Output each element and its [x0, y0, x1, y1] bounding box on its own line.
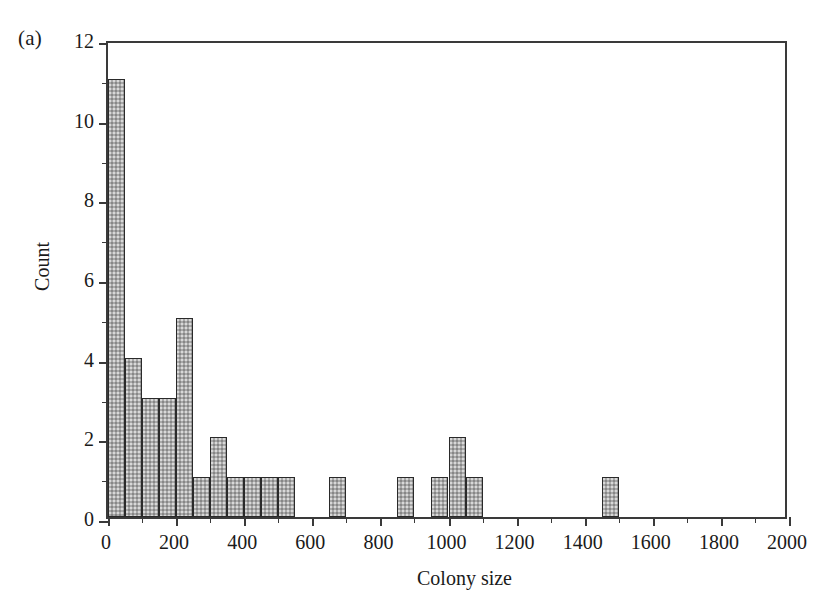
x-axis-minor-tick — [142, 517, 143, 523]
y-axis-title: Count — [31, 207, 54, 327]
histogram-bar — [176, 318, 193, 517]
histogram-bar — [193, 477, 210, 517]
x-axis-tick-label: 400 — [227, 531, 257, 554]
histogram-bar — [125, 358, 142, 517]
y-axis-minor-tick — [102, 83, 108, 84]
histogram-bar — [329, 477, 346, 517]
x-axis-minor-tick — [210, 517, 211, 523]
y-axis-minor-tick — [102, 322, 108, 323]
x-axis-minor-tick — [619, 517, 620, 523]
y-axis-tick-label: 8 — [84, 189, 94, 212]
y-axis-tick-label: 4 — [84, 348, 94, 371]
y-axis-minor-tick — [102, 242, 108, 243]
y-axis-tick-label: 10 — [74, 109, 94, 132]
x-axis-tick — [176, 517, 178, 526]
y-axis-tick — [99, 43, 108, 45]
y-axis-tick — [99, 123, 108, 125]
x-axis-tick — [449, 517, 451, 526]
x-axis-tick-label: 1200 — [495, 531, 535, 554]
plot-area — [106, 41, 787, 519]
y-axis-tick — [99, 441, 108, 443]
histogram-bar — [227, 477, 244, 517]
x-axis-tick — [312, 517, 314, 526]
x-axis-tick — [108, 517, 110, 526]
x-axis-minor-tick — [687, 517, 688, 523]
x-axis-tick-label: 200 — [159, 531, 189, 554]
y-axis-tick — [99, 521, 108, 523]
y-axis-tick — [99, 282, 108, 284]
y-axis-minor-tick — [102, 163, 108, 164]
histogram-bar — [466, 477, 483, 517]
y-axis-tick — [99, 202, 108, 204]
y-axis-tick-label: 0 — [84, 508, 94, 531]
y-axis-tick-label: 12 — [74, 30, 94, 53]
x-axis-tick-label: 0 — [101, 531, 111, 554]
x-axis-tick — [585, 517, 587, 526]
x-axis-title-text: Colony size — [417, 567, 512, 589]
x-axis-minor-tick — [483, 517, 484, 523]
x-axis-title: Colony size — [0, 567, 829, 590]
histogram-figure: (a) Count 024681012 02004006008001000120… — [0, 0, 829, 608]
x-axis-tick — [517, 517, 519, 526]
y-axis-minor-tick — [102, 481, 108, 482]
x-axis-tick-label: 1800 — [699, 531, 739, 554]
histogram-bars — [108, 43, 785, 517]
x-axis-tick-label: 1400 — [563, 531, 603, 554]
x-axis-tick-label: 600 — [295, 531, 325, 554]
histogram-bar — [261, 477, 278, 517]
x-axis-tick-label: 800 — [363, 531, 393, 554]
histogram-bar — [159, 398, 176, 518]
y-axis-minor-tick — [102, 402, 108, 403]
x-axis-tick — [244, 517, 246, 526]
histogram-bar — [108, 79, 125, 517]
x-axis-tick — [789, 517, 791, 526]
x-axis-tick-label: 1000 — [427, 531, 467, 554]
x-axis-minor-tick — [278, 517, 279, 523]
y-axis-tick-label: 6 — [84, 269, 94, 292]
histogram-bar — [278, 477, 295, 517]
x-axis-tick-label: 1600 — [631, 531, 671, 554]
histogram-bar — [602, 477, 619, 517]
histogram-bar — [210, 437, 227, 517]
x-axis-tick-label: 2000 — [767, 531, 807, 554]
panel-label: (a) — [18, 26, 42, 51]
x-axis-tick-labels: 0200400600800100012001400160018002000 — [0, 531, 829, 561]
x-axis-tick — [380, 517, 382, 526]
histogram-bar — [397, 477, 414, 517]
x-axis-tick — [653, 517, 655, 526]
histogram-bar — [142, 398, 159, 518]
y-axis-tick — [99, 362, 108, 364]
x-axis-minor-tick — [414, 517, 415, 523]
histogram-bar — [244, 477, 261, 517]
histogram-bar — [431, 477, 448, 517]
y-axis-tick-labels: 024681012 — [58, 0, 94, 608]
x-axis-minor-tick — [551, 517, 552, 523]
y-axis-tick-label: 2 — [84, 428, 94, 451]
x-axis-minor-tick — [755, 517, 756, 523]
x-axis-tick — [721, 517, 723, 526]
x-axis-minor-tick — [346, 517, 347, 523]
histogram-bar — [449, 437, 466, 517]
